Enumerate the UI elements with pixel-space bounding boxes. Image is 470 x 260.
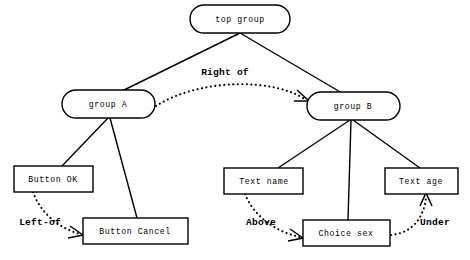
diagram-svg: top group group A group B Button OK Butt… <box>0 0 470 260</box>
relation-arrowhead-right-of <box>294 90 309 101</box>
tree-edge-group-a-to-button-cancel <box>110 118 137 218</box>
node-button-cancel[interactable]: Button Cancel <box>83 218 188 244</box>
node-group-a-label: group A <box>89 100 128 109</box>
relation-label-right-of: Right of <box>201 67 249 78</box>
node-group-b-label: group B <box>334 102 373 111</box>
node-group-b[interactable]: group B <box>307 92 400 120</box>
tree-edge-group-b-to-choice-sex <box>348 120 351 220</box>
diagram-canvas: top group group A group B Button OK Butt… <box>0 0 470 260</box>
relation-label-under: Under <box>420 217 450 228</box>
node-text-age-label: Text age <box>399 177 443 186</box>
node-text-age[interactable]: Text age <box>385 168 458 194</box>
node-text-name[interactable]: Text name <box>224 168 303 194</box>
node-top-group-label: top group <box>215 15 265 24</box>
relation-edge-right-of <box>156 84 306 106</box>
node-top-group[interactable]: top group <box>190 5 290 33</box>
node-button-ok[interactable]: Button OK <box>14 166 93 192</box>
relation-label-left-of: Left-of <box>19 217 61 228</box>
nodes-group: top group group A group B Button OK Butt… <box>14 5 458 246</box>
node-button-cancel-label: Button Cancel <box>99 227 171 236</box>
tree-edge-group-b-to-text-name <box>278 120 350 168</box>
node-choice-sex[interactable]: Choice sex <box>303 220 390 246</box>
tree-edge-top-group-to-group-a <box>122 33 240 91</box>
node-choice-sex-label: Choice sex <box>318 229 373 238</box>
tree-edge-group-a-to-button-ok <box>62 118 108 166</box>
node-text-name-label: Text name <box>239 177 289 186</box>
tree-edge-group-b-to-text-age <box>353 120 420 168</box>
node-group-a[interactable]: group A <box>62 90 155 118</box>
relation-arrowhead-left-of <box>68 226 83 238</box>
node-button-ok-label: Button OK <box>28 175 78 184</box>
relation-label-above: Above <box>246 217 276 228</box>
